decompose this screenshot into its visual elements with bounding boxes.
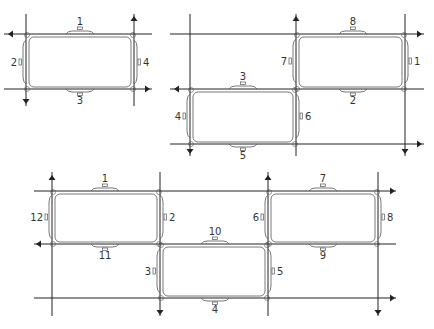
sensor-marker xyxy=(300,113,303,119)
sensor-label: 1 xyxy=(77,16,83,27)
sensor-marker xyxy=(78,27,83,30)
sensor-marker xyxy=(213,237,218,240)
sensor-label: 11 xyxy=(99,250,112,261)
sensor-2: 2 xyxy=(11,40,26,84)
sensor-9: 9 xyxy=(309,244,337,261)
sensor-label: 1 xyxy=(102,173,108,184)
sensor-marker xyxy=(409,58,412,64)
sensor-marker xyxy=(241,82,246,85)
sensor-4: 4 xyxy=(134,40,149,84)
sensor-label: 7 xyxy=(320,173,326,184)
sensor-label: 7 xyxy=(281,56,287,67)
block-loop xyxy=(271,194,375,242)
sensor-label: 3 xyxy=(240,71,246,82)
corner-curve xyxy=(25,33,30,38)
sensor-label: 2 xyxy=(11,57,17,68)
sensor-label: 8 xyxy=(350,16,356,27)
arrow-down-icon xyxy=(187,149,194,154)
sensor-label: 6 xyxy=(253,212,259,223)
sensor-marker xyxy=(45,214,48,220)
arrow-down-icon xyxy=(402,149,409,154)
sensor-marker xyxy=(382,214,385,220)
sensor-11: 11 xyxy=(91,244,119,261)
sensor-6: 6 xyxy=(296,94,311,138)
corner-curve xyxy=(51,190,56,195)
arrow-down-icon xyxy=(23,99,30,104)
sensor-label: 5 xyxy=(277,266,283,277)
sensor-label: 10 xyxy=(209,226,222,237)
sensor-marker xyxy=(153,268,156,274)
sensor-7: 7 xyxy=(281,39,296,83)
corner-curve xyxy=(189,88,194,93)
sensor-3: 3 xyxy=(145,249,160,293)
arrow-right-icon xyxy=(390,295,395,302)
sensor-label: 3 xyxy=(145,266,151,277)
sensor-8: 8 xyxy=(339,16,367,34)
arrow-right-icon xyxy=(390,188,395,195)
sensor-label: 8 xyxy=(387,212,393,223)
sensor-6: 6 xyxy=(253,195,268,239)
arrow-left-icon xyxy=(36,241,41,248)
sensor-marker xyxy=(183,113,186,119)
sensor-marker xyxy=(103,184,108,187)
sensor-7: 7 xyxy=(309,173,337,191)
sensor-label: 2 xyxy=(169,212,175,223)
sensor-4: 4 xyxy=(175,94,190,138)
sensor-marker xyxy=(272,268,275,274)
figure-fig-a: 1234 xyxy=(4,14,152,106)
arrow-down-icon xyxy=(375,310,382,315)
sensor-5: 5 xyxy=(268,249,283,293)
sensor-4: 4 xyxy=(201,298,229,315)
sensor-label: 4 xyxy=(143,57,149,68)
sensor-label: 1 xyxy=(414,56,420,67)
figure-fig-c: 112211768910354 xyxy=(30,172,396,316)
sensor-1: 1 xyxy=(405,39,420,83)
sensor-marker xyxy=(289,58,292,64)
sensor-2: 2 xyxy=(339,89,367,106)
corner-curve xyxy=(267,190,272,195)
arrow-right-icon xyxy=(417,31,422,38)
block-loop xyxy=(193,92,293,142)
sensor-marker xyxy=(138,59,141,65)
sensor-label: 2 xyxy=(350,95,356,106)
sensor-marker xyxy=(351,27,356,30)
sensor-marker xyxy=(164,214,167,220)
diagram-canvas: 123487123465112211768910354 xyxy=(0,0,434,329)
sensor-5: 5 xyxy=(229,144,257,161)
block-loop xyxy=(55,194,157,242)
corner-curve xyxy=(375,190,380,195)
block-loop xyxy=(299,37,402,87)
sensor-2: 2 xyxy=(160,195,175,239)
corner-curve xyxy=(402,33,407,38)
sensor-marker xyxy=(261,214,264,220)
sensor-12: 12 xyxy=(30,195,52,239)
corner-curve xyxy=(131,33,136,38)
corner-curve xyxy=(295,33,300,38)
sensor-1: 1 xyxy=(91,173,119,191)
arrow-down-icon xyxy=(157,310,164,315)
sensor-3: 3 xyxy=(66,89,94,106)
sensor-label: 3 xyxy=(77,95,83,106)
sensor-label: 4 xyxy=(212,304,218,315)
sensor-label: 5 xyxy=(240,150,246,161)
arrow-up-icon xyxy=(49,175,56,180)
sensor-1: 1 xyxy=(66,16,94,34)
arrow-right-icon xyxy=(145,86,150,93)
arrow-up-icon xyxy=(131,16,138,21)
arrow-up-icon xyxy=(265,175,272,180)
arrow-left-icon xyxy=(8,31,13,38)
sensor-10: 10 xyxy=(201,226,229,244)
sensor-label: 12 xyxy=(30,212,43,223)
sensor-label: 9 xyxy=(320,250,326,261)
sensor-8: 8 xyxy=(378,195,393,239)
sensor-label: 4 xyxy=(175,111,181,122)
corner-curve xyxy=(157,190,162,195)
sensor-3: 3 xyxy=(229,71,257,89)
arrow-left-icon xyxy=(174,86,179,93)
arrow-right-icon xyxy=(417,141,422,148)
sensor-label: 6 xyxy=(305,111,311,122)
arrow-up-icon xyxy=(293,16,300,21)
figure-fig-b: 87123465 xyxy=(170,14,424,161)
sensor-marker xyxy=(321,184,326,187)
block-loop xyxy=(163,247,265,296)
